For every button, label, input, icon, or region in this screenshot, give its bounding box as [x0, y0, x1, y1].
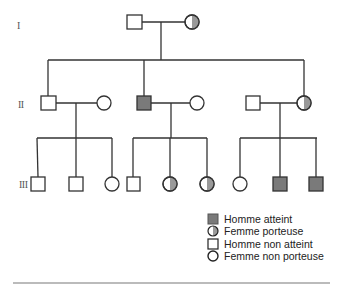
- individual-III-3-noncarrier-female: [105, 177, 119, 191]
- individual-III-6-carrier-female: [200, 177, 214, 191]
- individual-III-4-unaffected-male: [127, 177, 140, 191]
- generation-label-III: III: [19, 179, 28, 190]
- generation-label-I: I: [17, 20, 20, 31]
- individual-III-8-affected-male: [273, 177, 287, 191]
- individual-III-1-unaffected-male: [31, 177, 45, 191]
- individual-II-3-affected-male: [137, 96, 151, 110]
- legend-item-noncarrier-female: Femme non porteuse: [207, 250, 324, 262]
- individual-I-2-carrier-female: [185, 15, 199, 29]
- legend-item-affected-male: Homme atteint: [207, 213, 324, 225]
- individual-III-7-noncarrier-female: [233, 177, 247, 191]
- individual-III-5-carrier-female: [163, 177, 177, 191]
- individual-II-5-unaffected-male: [246, 96, 260, 110]
- drop-line-III-1: [37, 138, 38, 177]
- empty-circle-icon: [207, 250, 219, 262]
- empty-square-icon: [207, 238, 219, 250]
- generation-label-II: II: [18, 99, 24, 110]
- individual-II-2-noncarrier-female: [97, 96, 111, 110]
- bottom-divider: [13, 282, 330, 284]
- legend-label: Femme non porteuse: [224, 250, 324, 262]
- legend-item-carrier-female: Femme porteuse: [207, 225, 324, 237]
- half-filled-circle-icon: [207, 225, 219, 237]
- individual-III-2-unaffected-male: [69, 177, 83, 191]
- individual-II-6-carrier-female: [297, 96, 311, 110]
- filled-square-icon: [207, 213, 219, 225]
- legend-label: Femme porteuse: [224, 225, 303, 237]
- individual-II-1-unaffected-male: [41, 96, 56, 110]
- legend: Homme atteint Femme porteuse Homme non a…: [207, 213, 324, 262]
- legend-label: Homme non atteint: [224, 238, 313, 250]
- individual-II-4-noncarrier-female: [190, 96, 204, 110]
- individual-III-9-affected-male: [309, 177, 323, 191]
- legend-item-unaffected-male: Homme non atteint: [207, 238, 324, 250]
- legend-label: Homme atteint: [224, 213, 292, 225]
- individual-I-1-unaffected-male: [127, 15, 142, 29]
